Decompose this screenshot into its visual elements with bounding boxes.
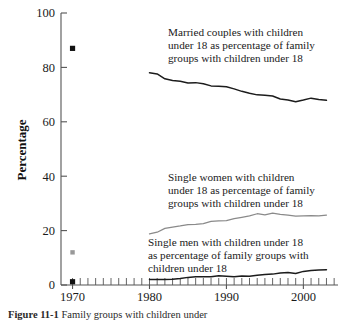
series-marker-0 xyxy=(70,46,75,51)
annotation-married-line-3: groups with children under 18 xyxy=(168,52,315,65)
figure-caption-label: Figure 11-1 xyxy=(8,309,59,320)
annotation-married-line-1: Married couples with children xyxy=(168,26,315,39)
y-axis-tick-label: 80 xyxy=(43,61,56,75)
annotation-men-line-2: as percentage of family groups with xyxy=(148,249,309,262)
y-axis-tick-label: 20 xyxy=(43,224,56,238)
annotation-single-men: Single men with children under 18 as per… xyxy=(148,236,309,276)
annotation-men-line-1: Single men with children under 18 xyxy=(148,236,309,249)
y-axis-title: Percentage xyxy=(14,119,29,180)
y-axis-tick-label: 60 xyxy=(43,115,56,129)
figure-container: 0204060801001970198019902000Percentage M… xyxy=(0,0,345,321)
series-marker-1 xyxy=(70,250,74,254)
x-axis-tick-label: 1990 xyxy=(214,290,239,304)
annotation-men-line-3: children under 18 xyxy=(148,262,309,275)
figure-caption-text: Family groups with children under xyxy=(61,309,207,320)
x-axis-tick-label: 1980 xyxy=(137,290,162,304)
y-axis-tick-label: 100 xyxy=(36,6,55,20)
series-marker-2 xyxy=(70,279,75,284)
y-axis-tick-label: 40 xyxy=(43,170,56,184)
annotation-women-line-3: groups with children under 18 xyxy=(168,197,315,210)
x-axis-tick-label: 2000 xyxy=(291,290,316,304)
series-line-0 xyxy=(149,73,326,102)
y-axis-tick-label: 0 xyxy=(49,278,55,292)
annotation-women-line-1: Single women with children xyxy=(168,171,315,184)
annotation-single-women: Single women with children under 18 as p… xyxy=(168,171,315,211)
annotation-women-line-2: under 18 as percentage of family xyxy=(168,184,315,197)
series-line-1 xyxy=(149,213,326,234)
annotation-married-couples: Married couples with children under 18 a… xyxy=(168,26,315,66)
annotation-married-line-2: under 18 as percentage of family xyxy=(168,39,315,52)
x-axis-tick-label: 1970 xyxy=(60,290,85,304)
figure-caption: Figure 11-1 Family groups with children … xyxy=(8,309,345,320)
